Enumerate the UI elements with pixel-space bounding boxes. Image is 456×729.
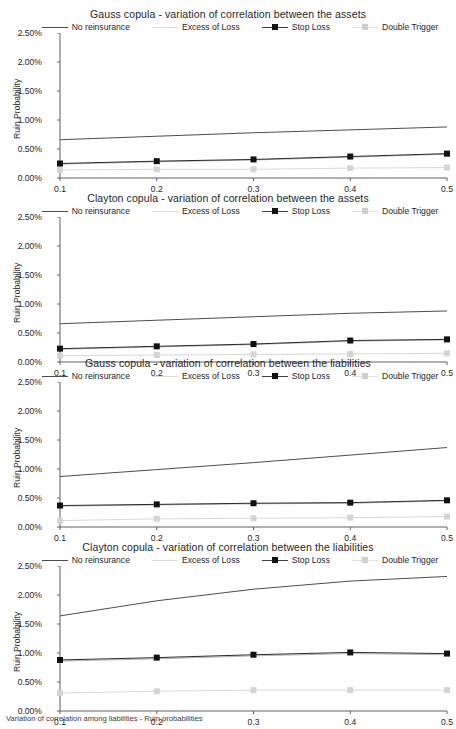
legend-item[interactable]: Stop Loss [262, 206, 330, 216]
legend-item[interactable]: Double Trigger [352, 206, 438, 216]
legend-label: Double Trigger [382, 371, 438, 381]
data-point-marker [347, 687, 353, 693]
legend-label: Double Trigger [382, 555, 438, 565]
data-point-marker [251, 515, 257, 521]
legend-swatch-icon [262, 207, 288, 216]
legend-swatch-icon [262, 23, 288, 32]
legend-swatch-icon [152, 23, 178, 32]
legend-label: No reinsurance [72, 206, 130, 216]
data-point-marker [57, 503, 63, 509]
series-line [60, 311, 447, 324]
x-tick-label: 0.5 [441, 717, 453, 727]
data-point-marker [444, 514, 450, 520]
legend-label: Excess of Loss [182, 555, 240, 565]
legend-item[interactable]: Double Trigger [352, 371, 438, 381]
data-point-marker [347, 165, 353, 171]
data-point-marker [444, 687, 450, 693]
data-point-marker [347, 500, 353, 506]
legend-label: Stop Loss [292, 22, 330, 32]
legend-item[interactable]: Excess of Loss [152, 371, 240, 381]
legend-swatch-icon [42, 23, 68, 32]
legend-item[interactable]: Stop Loss [262, 22, 330, 32]
chart-title: Clayton copula - variation of correlatio… [0, 192, 456, 204]
legend-swatch-icon [152, 372, 178, 381]
chart-panel: Gauss copula - variation of correlation … [0, 8, 456, 198]
legend-label: Double Trigger [382, 206, 438, 216]
legend-swatch-icon [262, 556, 288, 565]
data-point-marker [347, 649, 353, 655]
data-point-marker [57, 657, 63, 663]
legend-label: Excess of Loss [182, 22, 240, 32]
data-point-marker [251, 341, 257, 347]
legend-label: Excess of Loss [182, 206, 240, 216]
chart-title: Gauss copula - variation of correlation … [0, 357, 456, 369]
legend-item[interactable]: No reinsurance [42, 371, 130, 381]
chart-panel: Clayton copula - variation of correlatio… [0, 192, 456, 382]
data-point-marker [251, 500, 257, 506]
data-point-marker [57, 346, 63, 352]
chart-canvas [0, 566, 456, 715]
legend-label: Stop Loss [292, 371, 330, 381]
series-line [60, 576, 447, 615]
legend-swatch-icon [352, 372, 378, 381]
data-point-marker [444, 497, 450, 503]
data-point-marker [444, 165, 450, 171]
series-line [60, 127, 447, 140]
chart-title: Gauss copula - variation of correlation … [0, 8, 456, 20]
data-point-marker [251, 156, 257, 162]
data-point-marker [251, 687, 257, 693]
figure-caption: Variation of correlation among liabiliti… [6, 714, 203, 723]
data-point-marker [154, 158, 160, 164]
chart-title: Clayton copula - variation of correlatio… [0, 541, 456, 553]
chart-canvas [0, 382, 456, 531]
legend-label: Stop Loss [292, 206, 330, 216]
legend-swatch-icon [262, 372, 288, 381]
series-line [60, 448, 447, 477]
data-point-marker [444, 350, 450, 356]
legend-item[interactable]: Excess of Loss [152, 22, 240, 32]
x-tick-label: 0.4 [344, 717, 356, 727]
plot-area: Ruin Probability0.00%0.50%1.00%1.50%2.00… [0, 33, 456, 198]
chart-legend: No reinsuranceExcess of LossStop LossDou… [0, 205, 456, 217]
legend-swatch-icon [42, 372, 68, 381]
legend-swatch-icon [152, 207, 178, 216]
legend-item[interactable]: Stop Loss [262, 371, 330, 381]
legend-item[interactable]: Double Trigger [352, 555, 438, 565]
data-point-marker [444, 651, 450, 657]
data-point-marker [154, 343, 160, 349]
data-point-marker [347, 338, 353, 344]
legend-item[interactable]: Double Trigger [352, 22, 438, 32]
data-point-marker [347, 351, 353, 357]
data-point-marker [444, 151, 450, 157]
legend-item[interactable]: Excess of Loss [152, 555, 240, 565]
data-point-marker [154, 166, 160, 172]
legend-label: No reinsurance [72, 371, 130, 381]
plot-area: Ruin Probability0.00%0.50%1.00%1.50%2.00… [0, 382, 456, 547]
legend-item[interactable]: No reinsurance [42, 206, 130, 216]
legend-label: Stop Loss [292, 555, 330, 565]
data-point-marker [347, 154, 353, 160]
legend-item[interactable]: Stop Loss [262, 555, 330, 565]
legend-label: Excess of Loss [182, 371, 240, 381]
legend-swatch-icon [352, 556, 378, 565]
data-point-marker [57, 167, 63, 173]
data-point-marker [154, 688, 160, 694]
legend-item[interactable]: No reinsurance [42, 555, 130, 565]
chart-panel: Clayton copula - variation of correlatio… [0, 541, 456, 729]
data-point-marker [154, 501, 160, 507]
legend-item[interactable]: Excess of Loss [152, 206, 240, 216]
data-point-marker [251, 652, 257, 658]
chart-canvas [0, 217, 456, 366]
chart-legend: No reinsuranceExcess of LossStop LossDou… [0, 554, 456, 566]
legend-swatch-icon [152, 556, 178, 565]
data-point-marker [57, 518, 63, 524]
data-point-marker [154, 516, 160, 522]
chart-canvas [0, 33, 456, 182]
data-point-marker [251, 166, 257, 172]
legend-item[interactable]: No reinsurance [42, 22, 130, 32]
data-point-marker [57, 690, 63, 696]
legend-label: Double Trigger [382, 22, 438, 32]
data-point-marker [347, 515, 353, 521]
data-point-marker [57, 161, 63, 167]
